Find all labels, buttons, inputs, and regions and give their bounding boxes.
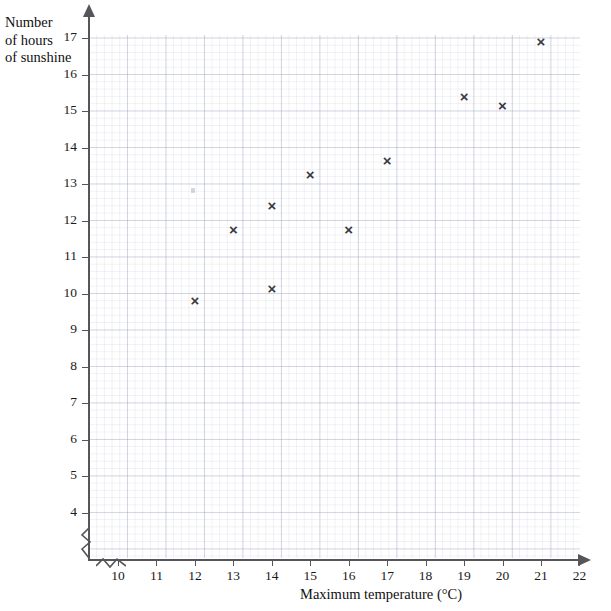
y-tick-13 [82,184,89,185]
y-tick-label-16: 16 [47,66,77,82]
data-point: × [458,90,471,103]
x-tick-label-18: 18 [413,568,439,584]
x-tick-14 [272,559,273,566]
x-tick-label-11: 11 [143,568,169,584]
y-tick-label-8: 8 [47,358,77,374]
data-point: × [265,199,278,212]
x-tick-label-22: 22 [566,568,592,584]
x-tick-label-19: 19 [451,568,477,584]
x-axis-title: Maximum temperature (°C) [300,586,600,603]
y-tick-8 [82,367,89,368]
data-point: × [227,223,240,236]
y-tick-label-14: 14 [47,139,77,155]
x-tick-18 [426,559,427,566]
y-tick-16 [82,75,89,76]
scatter-chart: 4567891011121314151617 10111213141516171… [0,0,611,611]
data-point: × [188,294,201,307]
data-point: × [381,154,394,167]
data-point: × [534,35,547,48]
x-tick-15 [310,559,311,566]
y-tick-label-7: 7 [47,394,77,410]
x-tick-16 [349,559,350,566]
y-tick-label-4: 4 [47,504,77,520]
x-tick-17 [387,559,388,566]
y-tick-5 [82,476,89,477]
y-tick-label-5: 5 [47,467,77,483]
x-tick-11 [156,559,157,566]
y-axis-title-line-1: of hours [5,32,85,50]
y-tick-15 [82,111,89,112]
x-tick-10 [118,559,119,566]
paper-smudge [191,188,195,193]
x-tick-22 [579,559,580,566]
x-tick-12 [195,559,196,566]
y-tick-label-13: 13 [47,175,77,191]
y-axis-title-line-0: Number [5,14,85,32]
x-tick-label-21: 21 [528,568,554,584]
x-tick-label-10: 10 [105,568,131,584]
y-axis-title: Numberof hoursof sunshine [5,14,85,67]
y-axis-line [88,14,90,561]
x-tick-label-15: 15 [297,568,323,584]
y-tick-label-10: 10 [47,285,77,301]
y-tick-14 [82,148,89,149]
x-tick-13 [233,559,234,566]
data-point: × [304,168,317,181]
data-point: × [496,99,509,112]
y-tick-12 [82,221,89,222]
y-tick-10 [82,294,89,295]
data-point: × [342,223,355,236]
y-tick-7 [82,403,89,404]
x-tick-label-13: 13 [220,568,246,584]
y-tick-11 [82,257,89,258]
x-tick-label-12: 12 [182,568,208,584]
y-tick-label-11: 11 [47,248,77,264]
x-tick-label-20: 20 [490,568,516,584]
y-tick-label-15: 15 [47,102,77,118]
x-tick-label-16: 16 [336,568,362,584]
y-axis-title-line-2: of sunshine [5,49,85,67]
x-tick-label-14: 14 [259,568,285,584]
y-tick-6 [82,440,89,441]
y-tick-label-12: 12 [47,212,77,228]
x-tick-label-17: 17 [374,568,400,584]
y-tick-label-9: 9 [47,321,77,337]
data-point: × [265,282,278,295]
y-axis-break-icon [74,528,96,558]
y-tick-4 [82,513,89,514]
x-axis-line [88,559,580,561]
y-tick-label-6: 6 [47,431,77,447]
x-tick-21 [541,559,542,566]
x-tick-19 [464,559,465,566]
y-tick-9 [82,330,89,331]
x-tick-20 [503,559,504,566]
